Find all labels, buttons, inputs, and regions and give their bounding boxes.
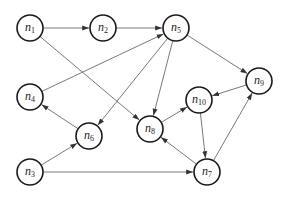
edge-n7-to-n9 (213, 93, 252, 161)
edge-n6-to-n4 (42, 105, 79, 129)
node-n8: n8 (137, 116, 163, 142)
edge-n5-to-n6 (98, 38, 168, 125)
node-n4: n4 (17, 84, 43, 110)
edge-n9-to-n10 (212, 85, 246, 96)
node-n7: n7 (194, 159, 220, 185)
node-n6: n6 (76, 123, 102, 149)
node-n5: n5 (163, 15, 189, 41)
edge-n10-to-n7 (200, 113, 205, 158)
edge-n4-to-n5 (42, 34, 164, 92)
edge-n7-to-n8 (161, 137, 197, 164)
node-n9: n9 (246, 68, 272, 94)
node-n3: n3 (17, 159, 43, 185)
edge-n3-to-n6 (41, 143, 77, 165)
nodes-layer: n1n2n5n9n4n10n6n8n3n7 (17, 15, 272, 185)
node-n1: n1 (17, 15, 43, 41)
edges-layer (40, 28, 252, 172)
node-n2: n2 (90, 15, 116, 41)
edge-n1-to-n8 (40, 36, 139, 120)
node-n10: n10 (186, 87, 212, 113)
edge-n5-to-n9 (187, 35, 247, 74)
edge-n8-to-n10 (161, 107, 187, 122)
directed-graph: n1n2n5n9n4n10n6n8n3n7 (0, 0, 287, 199)
